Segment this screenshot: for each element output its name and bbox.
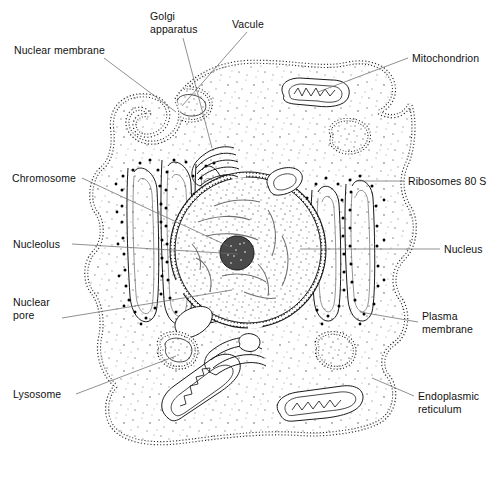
mitochondrion-top-right (282, 78, 349, 107)
cell-diagram-figure: Nuclear membraneGolgi apparatusVaculeMit… (0, 0, 496, 480)
label-vacule: Vacule (232, 18, 264, 31)
vesicle-bottom-center (239, 334, 260, 352)
vesicle-right-upper (330, 120, 369, 153)
lysosome-left (159, 333, 197, 368)
label-nucleus: Nucleus (444, 243, 483, 256)
label-plasma-membrane: Plasma membrane (422, 310, 473, 335)
label-lysosome: Lysosome (13, 388, 61, 401)
label-nuclear-pore: Nuclear pore (13, 296, 50, 321)
lysosome-right (317, 333, 355, 368)
label-nucleolus: Nucleolus (13, 238, 60, 251)
nucleus (170, 172, 326, 328)
label-ribosomes-80s: Ribosomes 80 S (408, 175, 486, 188)
label-nuclear-membrane: Nuclear membrane (14, 44, 105, 57)
label-endoplasmic-reticulum: Endoplasmic reticulum (418, 390, 479, 415)
vacule-top (170, 88, 211, 121)
label-chromosome: Chromosome (12, 172, 76, 185)
label-golgi-apparatus: Golgi apparatus (150, 10, 198, 35)
label-mitochondrion: Mitochondrion (412, 52, 479, 65)
